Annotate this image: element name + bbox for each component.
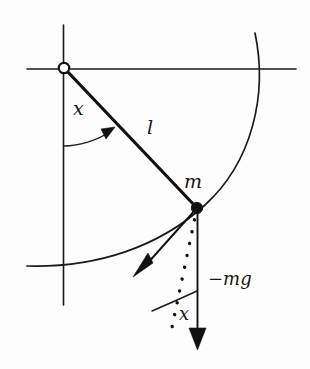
- pivot-point-circle: [59, 63, 69, 73]
- label-gravity-force: −mg: [208, 268, 252, 289]
- mass-bob-dot: [191, 202, 202, 213]
- pendulum-diagram-canvas: x l m −mg x: [0, 0, 310, 369]
- label-angle-bottom: x: [179, 303, 189, 324]
- bottom-angle-arc: [152, 291, 197, 311]
- gravity-force-arrowhead: [189, 328, 206, 350]
- label-rod-length: l: [147, 116, 153, 138]
- top-angle-arrowhead: [101, 127, 115, 139]
- pendulum-rod: [66, 70, 196, 207]
- pendulum-figure: x l m −mg x: [0, 0, 310, 369]
- label-mass: m: [184, 170, 202, 192]
- tangential-force-line: [146, 208, 197, 265]
- tangential-force-arrowhead: [133, 253, 153, 277]
- label-angle-top: x: [73, 97, 84, 119]
